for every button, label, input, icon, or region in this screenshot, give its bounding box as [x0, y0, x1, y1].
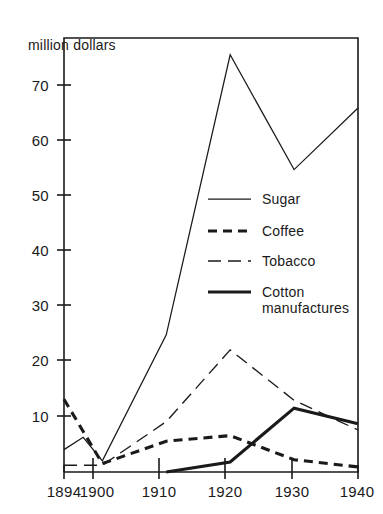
- y-axis-tick-labels: 70 60 50 40 30 20 10: [32, 77, 49, 425]
- y-tick-label-60: 60: [32, 132, 49, 149]
- legend-label-cotton-line2: manufactures: [262, 300, 349, 316]
- x-tick-label-1894: 1894: [47, 483, 82, 500]
- x-tick-label-1930: 1930: [275, 483, 310, 500]
- series-line-coffee: [64, 399, 358, 467]
- x-tick-label-1920: 1920: [208, 483, 243, 500]
- legend-label-sugar: Sugar: [262, 191, 300, 207]
- legend-item-cotton-manufactures: Cotton manufactures: [208, 284, 349, 316]
- y-tick-label-20: 20: [32, 352, 49, 369]
- y-tick-label-10: 10: [32, 408, 49, 425]
- y-axis-title: million dollars: [28, 37, 116, 53]
- legend-label-coffee: Coffee: [262, 223, 304, 239]
- x-tick-label-1940: 1940: [340, 483, 375, 500]
- x-axis-tick-labels: 1894 1900 1910 1920 1930 1940: [47, 483, 375, 500]
- legend-item-sugar: Sugar: [208, 191, 300, 207]
- y-tick-label-30: 30: [32, 297, 49, 314]
- y-tick-label-50: 50: [32, 187, 49, 204]
- series-line-tobacco: [64, 350, 358, 465]
- x-tick-label-1900: 1900: [80, 483, 115, 500]
- legend-label-cotton-line1: Cotton: [262, 284, 304, 300]
- legend-label-tobacco: Tobacco: [262, 253, 316, 269]
- y-tick-label-70: 70: [32, 77, 49, 94]
- chart-container: 70 60 50 40 30 20 10 million dollars 189…: [0, 0, 383, 514]
- legend-item-coffee: Coffee: [208, 223, 304, 239]
- line-chart-figure: 70 60 50 40 30 20 10 million dollars 189…: [0, 0, 383, 514]
- chart-legend: Sugar Coffee Tobacco Cotton manufactures: [208, 191, 349, 316]
- y-tick-label-40: 40: [32, 242, 49, 259]
- x-tick-label-1910: 1910: [142, 483, 177, 500]
- legend-item-tobacco: Tobacco: [208, 253, 316, 269]
